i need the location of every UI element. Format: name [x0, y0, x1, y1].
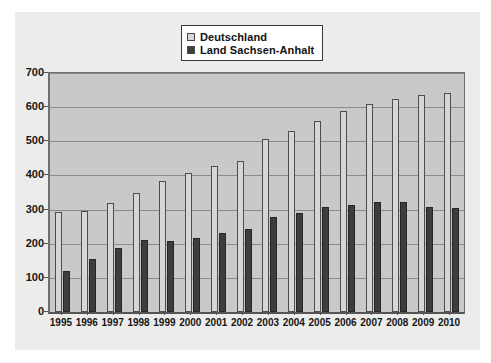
bar-land-sachsen-anhalt [296, 213, 303, 312]
x-axis-tick-label: 1995 [50, 317, 72, 328]
bar-group [288, 73, 303, 312]
bar-land-sachsen-anhalt [193, 238, 200, 312]
bar-group [211, 73, 226, 312]
bar-land-sachsen-anhalt [374, 202, 381, 312]
x-axis-tick-mark [61, 311, 62, 315]
x-axis-tick-label: 2000 [179, 317, 201, 328]
bar-land-sachsen-anhalt [400, 202, 407, 312]
x-axis-tick-mark [113, 311, 114, 315]
legend-swatch-deutschland [187, 33, 195, 41]
legend-entry-land-sachsen-anhalt: Land Sachsen-Anhalt [187, 43, 314, 56]
bar-deutschland [444, 93, 451, 312]
x-axis-tick-mark [371, 311, 372, 315]
bar-deutschland [133, 193, 140, 313]
bar-deutschland [288, 131, 295, 312]
bar-deutschland [211, 166, 218, 312]
x-axis-labels: 1995199619971998199920002001200220032004… [48, 317, 464, 333]
x-axis-tick-mark [87, 311, 88, 315]
x-axis-tick-mark [423, 311, 424, 315]
bar-group [262, 73, 277, 312]
x-axis-tick-label: 2010 [438, 317, 460, 328]
x-axis-tick-label: 2009 [412, 317, 434, 328]
bar-group [392, 73, 407, 312]
bar-group [237, 73, 252, 312]
bar-deutschland [107, 203, 114, 312]
plot-area [48, 72, 465, 314]
bar-group [159, 73, 174, 312]
bar-land-sachsen-anhalt [63, 271, 70, 312]
legend-entry-deutschland: Deutschland [187, 30, 314, 43]
x-axis-tick-mark [320, 311, 321, 315]
legend-label-deutschland: Deutschland [200, 31, 267, 43]
x-axis-tick-mark [449, 311, 450, 315]
y-axis-ticks [15, 72, 48, 311]
bar-group [133, 73, 148, 312]
chart-legend: Deutschland Land Sachsen-Anhalt [181, 25, 323, 61]
x-axis-tick-label: 2004 [283, 317, 305, 328]
x-axis-tick-label: 1997 [102, 317, 124, 328]
x-axis-tick-mark [164, 311, 165, 315]
bar-land-sachsen-anhalt [141, 240, 148, 312]
bar-group [314, 73, 329, 312]
x-axis-tick-mark [190, 311, 191, 315]
bar-deutschland [262, 139, 269, 312]
bar-deutschland [418, 95, 425, 312]
bar-group [340, 73, 355, 312]
x-axis-ticks [48, 311, 464, 316]
bar-land-sachsen-anhalt [219, 233, 226, 312]
x-axis-tick-mark [294, 311, 295, 315]
bar-deutschland [55, 212, 62, 312]
x-axis-tick-label: 1999 [153, 317, 175, 328]
bar-deutschland [159, 181, 166, 312]
bar-group [55, 73, 70, 312]
bar-land-sachsen-anhalt [426, 207, 433, 312]
x-axis-tick-mark [216, 311, 217, 315]
x-axis-tick-mark [139, 311, 140, 315]
bar-land-sachsen-anhalt [348, 205, 355, 312]
bar-deutschland [314, 121, 321, 312]
x-axis-tick-label: 2002 [231, 317, 253, 328]
x-axis-tick-label: 2006 [334, 317, 356, 328]
bar-group [418, 73, 433, 312]
x-axis-tick-label: 2003 [257, 317, 279, 328]
bar-land-sachsen-anhalt [89, 259, 96, 312]
x-axis-tick-mark [268, 311, 269, 315]
bar-land-sachsen-anhalt [115, 248, 122, 312]
x-axis-tick-label: 1998 [127, 317, 149, 328]
bar-land-sachsen-anhalt [322, 207, 329, 312]
bar-land-sachsen-anhalt [167, 241, 174, 312]
x-axis-tick-label: 1996 [76, 317, 98, 328]
x-axis-tick-mark [242, 311, 243, 315]
bar-land-sachsen-anhalt [452, 208, 459, 312]
bar-group [81, 73, 96, 312]
bar-land-sachsen-anhalt [270, 217, 277, 312]
bar-land-sachsen-anhalt [245, 229, 252, 312]
legend-swatch-land-sachsen-anhalt [187, 46, 195, 54]
bar-group [185, 73, 200, 312]
chart-panel: Deutschland Land Sachsen-Anhalt 01002003… [15, 12, 480, 350]
x-axis-tick-label: 2008 [386, 317, 408, 328]
bar-deutschland [366, 104, 373, 312]
x-axis-tick-mark [346, 311, 347, 315]
bar-deutschland [185, 173, 192, 312]
bar-group [444, 73, 459, 312]
x-axis-tick-label: 2005 [309, 317, 331, 328]
x-axis-tick-label: 2007 [360, 317, 382, 328]
x-axis-tick-mark [397, 311, 398, 315]
chart-figure: Deutschland Land Sachsen-Anhalt 01002003… [0, 0, 491, 363]
bar-deutschland [81, 211, 88, 312]
bar-deutschland [237, 161, 244, 312]
bar-deutschland [392, 99, 399, 312]
legend-label-land-sachsen-anhalt: Land Sachsen-Anhalt [200, 44, 314, 56]
x-axis-tick-label: 2001 [205, 317, 227, 328]
bar-group [366, 73, 381, 312]
bar-deutschland [340, 111, 347, 312]
bar-group [107, 73, 122, 312]
